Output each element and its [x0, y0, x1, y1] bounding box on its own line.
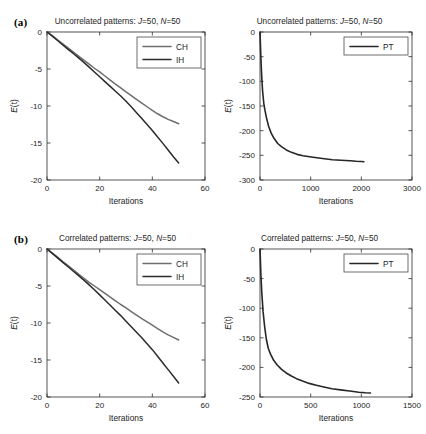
- y-tick-label: 0: [38, 245, 43, 254]
- y-tick-label: -150: [239, 102, 256, 111]
- y-tick-label: -100: [239, 77, 256, 86]
- y-tick-label: -300: [239, 176, 256, 185]
- x-tick-label: 60: [201, 184, 210, 193]
- x-tick-label: 20: [95, 184, 104, 193]
- legend-label-ch: CH: [176, 260, 188, 269]
- y-tick-label: -15: [30, 139, 42, 148]
- x-tick-label: 0: [45, 401, 50, 410]
- x-tick-label: 1000: [352, 401, 370, 410]
- y-tick-label: -10: [30, 102, 42, 111]
- subplot-b-right: Correlated patterns: J=50, N=50 05001000…: [213, 217, 426, 434]
- x-axis-label: Iterations: [319, 413, 353, 423]
- y-tick-label: -20: [30, 176, 42, 185]
- subplot-a-right: Uncorrelated patterns: J=50, N=50 010002…: [213, 0, 426, 217]
- chart-b-right: 0500100015000-50-100-150-200-250Iteratio…: [213, 217, 426, 434]
- legend-label-pt: PT: [383, 43, 393, 52]
- chart-b-left: 02040600-5-10-15-20IterationsE(t)CHIH: [0, 217, 213, 434]
- x-tick-label: 0: [258, 401, 263, 410]
- panel-row-b: (b) Correlated patterns: J=50, N=50 0204…: [0, 217, 426, 434]
- y-tick-label: -200: [239, 127, 256, 136]
- y-axis-label: E(t): [9, 99, 19, 113]
- x-axis-label: Iterations: [319, 196, 353, 206]
- x-tick-label: 40: [148, 401, 157, 410]
- plot-a-left: 02040600-5-10-15-20IterationsE(t)CHIH: [0, 0, 213, 217]
- y-tick-label: 0: [251, 28, 256, 37]
- subplot-b-left: Correlated patterns: J=50, N=50 02040600…: [0, 217, 213, 434]
- y-tick-label: 0: [251, 245, 256, 254]
- figure-canvas: (a) Uncorrelated patterns: J=50, N=50 02…: [0, 0, 426, 434]
- plot-b-right: 0500100015000-50-100-150-200-250Iteratio…: [213, 217, 426, 434]
- y-axis-label: E(t): [223, 316, 233, 330]
- x-axis-label: Iterations: [109, 196, 143, 206]
- y-axis-label: E(t): [223, 99, 233, 113]
- y-tick-label: -250: [239, 393, 256, 402]
- y-tick-label: -15: [30, 356, 42, 365]
- y-tick-label: -10: [30, 319, 42, 328]
- x-tick-label: 0: [258, 184, 263, 193]
- panel-row-a: (a) Uncorrelated patterns: J=50, N=50 02…: [0, 0, 426, 217]
- plot-a-right: 01000200030000-50-100-150-200-250-300Ite…: [213, 0, 426, 217]
- chart-a-left: 02040600-5-10-15-20IterationsE(t)CHIH: [0, 0, 213, 217]
- y-tick-label: -50: [243, 53, 255, 62]
- legend-box[interactable]: [137, 254, 201, 285]
- x-tick-label: 20: [95, 401, 104, 410]
- y-tick-label: -200: [239, 363, 256, 372]
- x-tick-label: 500: [304, 401, 318, 410]
- y-tick-label: -250: [239, 151, 256, 160]
- x-tick-label: 0: [45, 184, 50, 193]
- x-tick-label: 3000: [403, 184, 421, 193]
- legend-label-pt: PT: [383, 260, 393, 269]
- y-tick-label: -5: [35, 65, 43, 74]
- x-tick-label: 60: [201, 401, 210, 410]
- y-tick-label: -5: [35, 282, 43, 291]
- x-tick-label: 1500: [403, 401, 421, 410]
- y-tick-label: -50: [243, 275, 255, 284]
- x-axis-label: Iterations: [109, 413, 143, 423]
- x-tick-label: 1000: [302, 184, 320, 193]
- legend-label-ih: IH: [176, 56, 184, 65]
- y-axis-label: E(t): [9, 316, 19, 330]
- y-tick-label: 0: [38, 28, 43, 37]
- legend-label-ih: IH: [176, 273, 184, 282]
- subplot-a-left: Uncorrelated patterns: J=50, N=50 020406…: [0, 0, 213, 217]
- y-tick-label: -100: [239, 304, 256, 313]
- legend-label-ch: CH: [176, 43, 188, 52]
- x-tick-label: 40: [148, 184, 157, 193]
- x-tick-label: 2000: [352, 184, 370, 193]
- chart-a-right: 01000200030000-50-100-150-200-250-300Ite…: [213, 0, 426, 217]
- y-tick-label: -20: [30, 393, 42, 402]
- plot-b-left: 02040600-5-10-15-20IterationsE(t)CHIH: [0, 217, 213, 434]
- y-tick-label: -150: [239, 334, 256, 343]
- legend-box[interactable]: [137, 37, 201, 68]
